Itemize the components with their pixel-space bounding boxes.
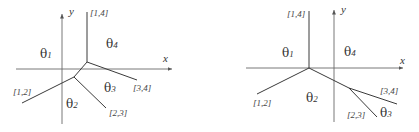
right-diagram: y x [1,4] [1,2] [2,3] [3,4] θ1 θ2 θ3 θ4 (246, 3, 405, 122)
left-label-1-2: [1,2] (13, 87, 32, 97)
left-x-axis-label: x (162, 52, 168, 64)
right-label-2-3: [2,3] (347, 110, 366, 120)
left-theta-1: θ1 (40, 47, 52, 61)
right-y-axis-label: y (340, 3, 346, 15)
left-diagram: y x [1,4] [1,2] [2,3] [3,4] θ1 θ2 θ3 θ4 (13, 5, 172, 124)
right-label-1-2: [1,2] (253, 98, 272, 108)
left-label-3-4: [3,4] (133, 83, 152, 93)
left-theta-2: θ2 (66, 97, 78, 111)
left-theta-3: θ3 (104, 81, 116, 95)
diagram-canvas: y x [1,4] [1,2] [2,3] [3,4] θ1 θ2 θ3 θ4 … (0, 0, 419, 132)
right-theta-2: θ2 (306, 91, 318, 105)
right-edge-middle (309, 68, 349, 88)
left-label-2-3: [2,3] (109, 108, 128, 118)
right-edge-1-2 (257, 68, 309, 94)
left-y-axis-label: y (68, 5, 74, 17)
right-theta-3: θ3 (380, 106, 392, 120)
right-x-axis-label: x (399, 54, 405, 66)
left-edge-2-3 (74, 77, 106, 108)
left-edge-3-4 (87, 62, 137, 80)
right-theta-1: θ1 (282, 46, 294, 60)
left-label-1-4: [1,4] (90, 8, 109, 18)
right-label-3-4: [3,4] (380, 86, 399, 96)
left-theta-4: θ4 (106, 37, 118, 51)
right-theta-4: θ4 (344, 45, 356, 59)
right-label-1-4: [1,4] (287, 9, 306, 19)
left-edge-middle (74, 62, 87, 77)
